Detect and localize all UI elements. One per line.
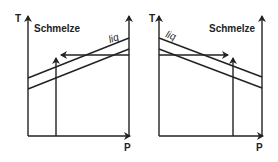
right-liquidus-upper-line — [159, 38, 262, 77]
left-region-label: Schmelze — [34, 23, 81, 34]
left-y-axis-label: T — [15, 13, 21, 24]
left-x-axis-label: P — [124, 142, 131, 153]
right-region-label: Schmelze — [209, 23, 256, 34]
right-x-axis-label: P — [256, 142, 263, 153]
right-y-axis-label: T — [149, 13, 155, 24]
left-liquidus-upper-line — [28, 38, 129, 78]
diagram-canvas: T Schmelze liq P T Schmelze liq P — [0, 0, 278, 162]
